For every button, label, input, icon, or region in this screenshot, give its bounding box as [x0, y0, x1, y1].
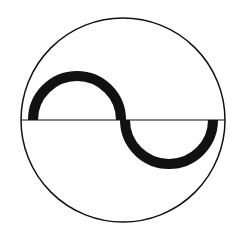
upper-half-wave [33, 76, 121, 120]
sine-circle-icon [0, 0, 237, 247]
ac-symbol-diagram [0, 0, 237, 247]
lower-half-wave [125, 120, 213, 164]
